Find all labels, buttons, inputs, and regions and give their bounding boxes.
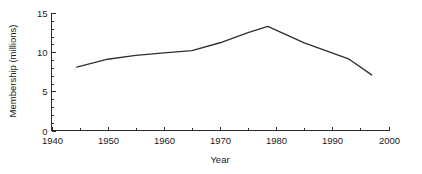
y-axis-tick-labels: 051015 bbox=[37, 8, 48, 137]
x-tick-label: 1980 bbox=[266, 135, 287, 146]
line-chart-plot: 051015 Membership (millions) 19401950196… bbox=[0, 0, 422, 174]
x-axis-group: 1940195019601970198019902000 Year bbox=[42, 127, 400, 166]
x-tick-label: 1960 bbox=[154, 135, 175, 146]
x-tick-label: 1940 bbox=[42, 135, 63, 146]
y-tick-label: 15 bbox=[37, 8, 48, 19]
x-tick-label: 1970 bbox=[210, 135, 231, 146]
y-axis-ticks bbox=[52, 14, 56, 132]
x-axis-ticks bbox=[53, 127, 390, 131]
x-axis-title: Year bbox=[210, 154, 229, 165]
x-tick-label: 1950 bbox=[98, 135, 119, 146]
chart-container: 051015 Membership (millions) 19401950196… bbox=[0, 0, 422, 174]
y-tick-label: 10 bbox=[37, 47, 48, 58]
membership-line bbox=[77, 26, 372, 75]
x-tick-label: 1990 bbox=[322, 135, 343, 146]
y-tick-label: 5 bbox=[42, 86, 47, 97]
x-tick-label: 2000 bbox=[379, 135, 400, 146]
x-axis-tick-labels: 1940195019601970198019902000 bbox=[42, 135, 400, 146]
y-axis-group: 051015 Membership (millions) bbox=[7, 8, 56, 137]
data-series-group bbox=[77, 26, 372, 75]
y-axis-title: Membership (millions) bbox=[7, 25, 18, 118]
